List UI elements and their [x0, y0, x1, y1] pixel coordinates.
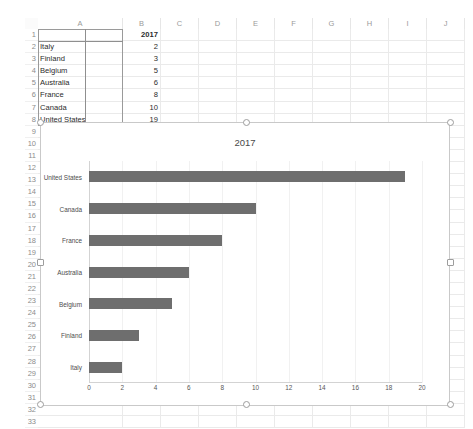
cell-D1[interactable] — [199, 29, 237, 41]
cell-D7[interactable] — [199, 102, 237, 114]
row-header-29[interactable]: 29 — [25, 368, 38, 380]
cell-I1[interactable] — [389, 29, 427, 41]
row-header-6[interactable]: 6 — [25, 89, 38, 101]
cell-B1[interactable]: 2017 — [123, 29, 161, 41]
row-header-31[interactable]: 31 — [25, 392, 38, 404]
cell-G5[interactable] — [313, 77, 351, 89]
row-header-16[interactable]: 16 — [25, 210, 38, 222]
resize-handle-bottom-right[interactable] — [447, 401, 454, 408]
cell-E5[interactable] — [237, 77, 275, 89]
bar-belgium[interactable] — [89, 298, 172, 309]
bar-italy[interactable] — [89, 362, 122, 373]
bar-australia[interactable] — [89, 267, 189, 278]
bar-series[interactable] — [89, 161, 422, 383]
cell-I7[interactable] — [389, 102, 427, 114]
cell-B7[interactable]: 10 — [123, 102, 161, 114]
cell-C4[interactable] — [161, 65, 199, 77]
row-header-32[interactable]: 32 — [25, 404, 38, 416]
cell-H4[interactable] — [351, 65, 389, 77]
row-header-33[interactable]: 33 — [25, 416, 38, 428]
cell-D2[interactable] — [199, 41, 237, 53]
bar-slot[interactable] — [89, 328, 422, 342]
cell-A5[interactable]: Australia — [38, 77, 123, 89]
cell-A6[interactable]: France — [38, 89, 123, 101]
row-header-13[interactable]: 13 — [25, 174, 38, 186]
row-header-5[interactable]: 5 — [25, 77, 38, 89]
row-header-15[interactable]: 15 — [25, 198, 38, 210]
row-header-14[interactable]: 14 — [25, 186, 38, 198]
row-header-27[interactable]: 27 — [25, 343, 38, 355]
cell-F5[interactable] — [275, 77, 313, 89]
cell-A2[interactable]: Italy — [38, 41, 123, 53]
cell-D3[interactable] — [199, 53, 237, 65]
column-header-g[interactable]: G — [313, 18, 351, 29]
row-header-28[interactable]: 28 — [25, 356, 38, 368]
chart-title[interactable]: 2017 — [41, 137, 449, 148]
row-header-21[interactable]: 21 — [25, 271, 38, 283]
cell-F6[interactable] — [275, 89, 313, 101]
grid-row[interactable]: Australia6 — [38, 77, 465, 89]
cell-I4[interactable] — [389, 65, 427, 77]
cell-B3[interactable]: 3 — [123, 53, 161, 65]
row-header-8[interactable]: 8 — [25, 114, 38, 126]
cell-E6[interactable] — [237, 89, 275, 101]
row-header-7[interactable]: 7 — [25, 102, 38, 114]
cell-C1[interactable] — [161, 29, 199, 41]
chart-plot-area[interactable]: United StatesCanadaFranceAustraliaBelgiu… — [89, 161, 422, 383]
cell-E7[interactable] — [237, 102, 275, 114]
row-header-11[interactable]: 11 — [25, 150, 38, 162]
bar-slot[interactable] — [89, 360, 422, 374]
column-header-h[interactable]: H — [351, 18, 389, 29]
column-header-j[interactable]: J — [427, 18, 465, 29]
cell-J1[interactable] — [427, 29, 465, 41]
cell-A4[interactable]: Belgium — [38, 65, 123, 77]
cell-B5[interactable]: 6 — [123, 77, 161, 89]
cell-A1[interactable] — [38, 29, 123, 41]
cell-D5[interactable] — [199, 77, 237, 89]
cell-H2[interactable] — [351, 41, 389, 53]
cell-B4[interactable]: 5 — [123, 65, 161, 77]
column-header-f[interactable]: F — [275, 18, 313, 29]
cell-J2[interactable] — [427, 41, 465, 53]
cell-G3[interactable] — [313, 53, 351, 65]
column-header-b[interactable]: B — [123, 18, 161, 29]
cell-H3[interactable] — [351, 53, 389, 65]
cell-G6[interactable] — [313, 89, 351, 101]
row-header-12[interactable]: 12 — [25, 162, 38, 174]
cell-G1[interactable] — [313, 29, 351, 41]
bar-slot[interactable] — [89, 202, 422, 216]
grid-row[interactable]: Belgium5 — [38, 65, 465, 77]
resize-handle-bottom-left[interactable] — [37, 401, 44, 408]
resize-handle-bottom-center[interactable] — [243, 401, 250, 408]
cell-J4[interactable] — [427, 65, 465, 77]
row-header-1[interactable]: 1 — [25, 29, 38, 41]
grid-row[interactable]: Canada10 — [38, 102, 465, 114]
cell-F1[interactable] — [275, 29, 313, 41]
cell-G33[interactable] — [313, 416, 351, 428]
cell-B6[interactable]: 8 — [123, 89, 161, 101]
cell-E2[interactable] — [237, 41, 275, 53]
row-header-26[interactable]: 26 — [25, 331, 38, 343]
row-header-23[interactable]: 23 — [25, 295, 38, 307]
cell-E4[interactable] — [237, 65, 275, 77]
cell-J3[interactable] — [427, 53, 465, 65]
cell-H1[interactable] — [351, 29, 389, 41]
cell-C6[interactable] — [161, 89, 199, 101]
row-header-10[interactable]: 10 — [25, 138, 38, 150]
row-header-24[interactable]: 24 — [25, 307, 38, 319]
cell-I2[interactable] — [389, 41, 427, 53]
cell-G7[interactable] — [313, 102, 351, 114]
cell-C5[interactable] — [161, 77, 199, 89]
row-header-19[interactable]: 19 — [25, 247, 38, 259]
y-axis-category-labels[interactable]: United StatesCanadaFranceAustraliaBelgiu… — [41, 161, 86, 383]
resize-handle-top-right[interactable] — [447, 119, 454, 126]
row-header-25[interactable]: 25 — [25, 319, 38, 331]
grid-row[interactable]: Italy2 — [38, 41, 465, 53]
cell-A7[interactable]: Canada — [38, 102, 123, 114]
cell-H6[interactable] — [351, 89, 389, 101]
row-header-18[interactable]: 18 — [25, 235, 38, 247]
resize-handle-top-center[interactable] — [243, 119, 250, 126]
cell-I3[interactable] — [389, 53, 427, 65]
column-header-a[interactable]: A — [38, 18, 123, 29]
cell-I5[interactable] — [389, 77, 427, 89]
